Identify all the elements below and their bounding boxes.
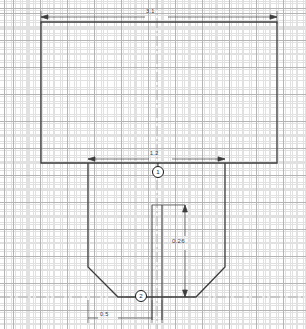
mid-dimension-1-2 xyxy=(88,157,225,161)
arrowhead-right xyxy=(218,157,225,161)
dimension-label-mid-width: 1.2 xyxy=(150,151,159,157)
cad-drawing-canvas: 3.1 1.2 0.26 0.5 1 2 xyxy=(0,0,306,329)
arrowhead-up xyxy=(183,205,188,212)
construction-axes xyxy=(0,0,306,329)
arrowhead-down xyxy=(183,290,188,297)
lower-body-outline xyxy=(88,163,225,297)
dimension-label-top-width: 3.1 xyxy=(146,9,155,15)
arrowhead-right xyxy=(270,15,277,19)
vertical-dimension-0-26 xyxy=(183,205,188,297)
arrowhead-left xyxy=(88,157,95,161)
arrowhead-left xyxy=(41,15,48,19)
drawing-geometry xyxy=(0,0,306,329)
dimension-label-depth: 0.26 xyxy=(172,238,185,244)
balloon-label-2[interactable]: 2 xyxy=(136,291,147,302)
balloon-label-1[interactable]: 1 xyxy=(153,167,164,178)
dimension-label-bottom-width: 0.5 xyxy=(100,312,109,318)
upper-rectangle-outline xyxy=(41,22,277,163)
